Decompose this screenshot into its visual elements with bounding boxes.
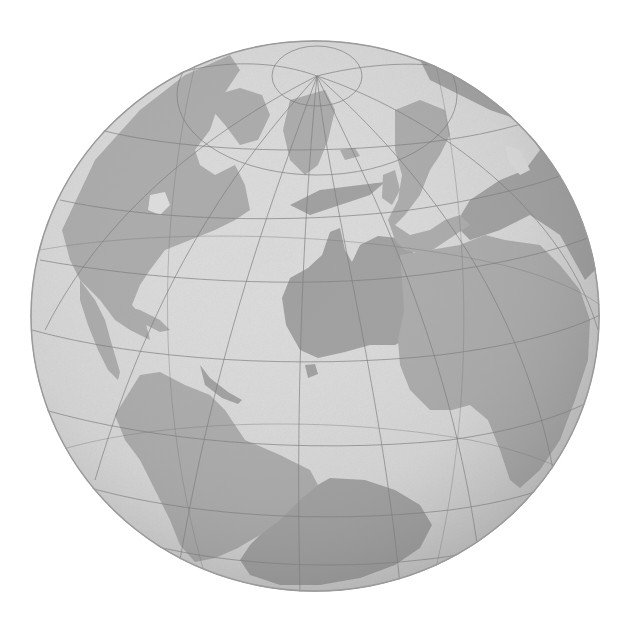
globe-scene <box>0 0 635 628</box>
globe <box>30 15 605 592</box>
globe-illustration <box>0 0 635 628</box>
